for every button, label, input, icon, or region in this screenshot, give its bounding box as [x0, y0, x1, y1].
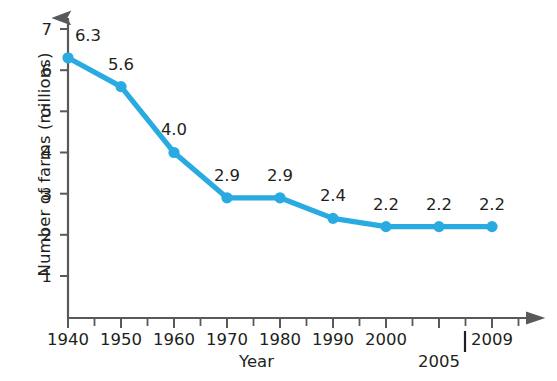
- x-axis-tick-label: 2009: [471, 330, 513, 349]
- data-point-value-label: 4.0: [161, 120, 187, 139]
- line-chart: Number of farms (millions) Year: [0, 0, 557, 381]
- axis-lines: [68, 18, 542, 318]
- x-axis-minor-ticks: [95, 318, 519, 326]
- x-axis-tick-label: 2005: [418, 352, 460, 371]
- data-point-marker: [274, 192, 285, 203]
- data-point-value-label: 2.9: [214, 166, 240, 185]
- y-axis-tick-label: 1: [30, 267, 52, 286]
- y-axis-tick-label: 3: [30, 184, 52, 203]
- y-axis-tick-label: 6: [30, 61, 52, 80]
- data-point-value-label: 2.4: [320, 186, 346, 205]
- data-point-value-label: 2.2: [373, 195, 399, 214]
- y-axis-tick-label: 5: [30, 102, 52, 121]
- data-point-marker: [327, 213, 338, 224]
- data-point-value-label: 2.2: [479, 195, 505, 214]
- data-point-marker: [168, 147, 179, 158]
- y-axis-tick-label: 7: [30, 19, 52, 38]
- x-axis-tick-label: 1940: [47, 330, 89, 349]
- data-point-marker: [380, 221, 391, 232]
- data-point-value-label: 5.6: [108, 55, 134, 74]
- data-point-marker: [433, 221, 444, 232]
- y-axis-tick-label: 4: [30, 143, 52, 162]
- data-point-value-label: 2.2: [426, 195, 452, 214]
- y-axis-tick-label: 2: [30, 225, 52, 244]
- x-axis-tick-label: 1960: [153, 330, 195, 349]
- data-point-value-label: 6.3: [75, 26, 101, 45]
- x-axis-major-ticks: [68, 318, 492, 328]
- data-point-value-label: 2.9: [267, 166, 293, 185]
- x-axis-tick-label: 1980: [259, 330, 301, 349]
- data-point-marker: [221, 192, 232, 203]
- x-axis-tick-label: 1950: [100, 330, 142, 349]
- y-axis-ticks: [60, 29, 68, 276]
- data-point-marker: [62, 52, 73, 63]
- data-point-marker: [486, 221, 497, 232]
- x-axis-tick-label: 2000: [365, 330, 407, 349]
- data-point-marker: [115, 81, 126, 92]
- plot-area: [0, 0, 557, 381]
- x-axis-tick-label: 1990: [312, 330, 354, 349]
- x-axis-tick-label: 1970: [206, 330, 248, 349]
